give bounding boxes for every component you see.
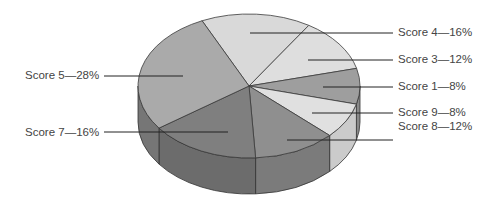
slice-label: Score 1—8% <box>398 80 466 92</box>
slice-label: Score 9—8% <box>398 106 466 118</box>
slice-label: Score 4—16% <box>398 26 472 38</box>
slice-label: Score 3—12% <box>398 53 472 65</box>
pie-chart: Score 4—16%Score 3—12%Score 1—8%Score 9—… <box>0 0 501 200</box>
slice-label: Score 5—28% <box>25 69 99 81</box>
pie-top-faces <box>138 14 360 158</box>
slice-label: Score 8—12% <box>398 120 472 132</box>
slice-label: Score 7—16% <box>25 126 99 138</box>
